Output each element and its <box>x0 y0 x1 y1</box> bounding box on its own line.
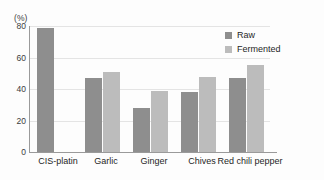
legend-swatch-icon <box>225 32 232 39</box>
bar <box>133 108 150 152</box>
x-axis-category-label: Garlic <box>94 156 118 166</box>
bar <box>103 72 120 152</box>
y-axis-tick-label: 0 <box>4 147 26 157</box>
x-axis-category-label: CIS-platin <box>38 156 78 166</box>
y-axis-tick-label: 40 <box>4 84 26 94</box>
x-axis-category-labels: CIS-platinGarlicGingerChivesRed chili pe… <box>30 156 278 174</box>
bar <box>85 78 102 152</box>
bar <box>181 92 198 152</box>
bar-group <box>85 26 120 152</box>
x-axis-category-label: Ginger <box>140 156 167 166</box>
legend-entry: Fermented <box>225 44 281 54</box>
bar-group <box>133 26 168 152</box>
legend: RawFermented <box>225 30 281 58</box>
bar-chart: (%) 020406080 CIS-platinGarlicGingerChiv… <box>0 0 324 180</box>
bar <box>37 28 54 152</box>
bar <box>247 65 264 152</box>
y-axis-tick-labels: 020406080 <box>0 26 26 152</box>
legend-entry: Raw <box>225 30 281 40</box>
x-axis-line <box>29 152 277 153</box>
cropped-title-remnant <box>0 0 324 7</box>
x-axis-category-label: Chives <box>188 156 216 166</box>
bar-group <box>181 26 216 152</box>
legend-label: Raw <box>237 30 255 40</box>
bar-group <box>37 26 72 152</box>
y-axis-tick-label: 20 <box>4 116 26 126</box>
y-axis-tick-label: 80 <box>4 21 26 31</box>
bar <box>199 77 216 152</box>
x-axis-category-label: Red chili pepper <box>217 156 282 166</box>
bar <box>151 91 168 152</box>
legend-label: Fermented <box>237 44 281 54</box>
bar <box>229 78 246 152</box>
y-axis-tick-label: 60 <box>4 53 26 63</box>
legend-swatch-icon <box>225 46 232 53</box>
